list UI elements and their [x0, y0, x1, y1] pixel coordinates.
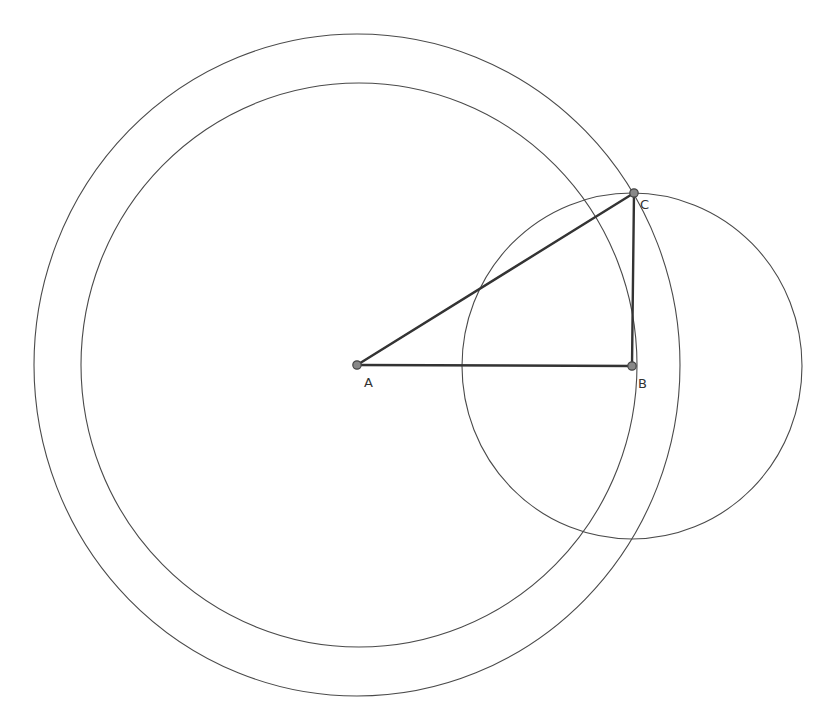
- point-b[interactable]: [628, 362, 636, 370]
- segment-bc: [632, 193, 634, 366]
- point-c[interactable]: [630, 189, 638, 197]
- labels-layer: A B C: [364, 197, 649, 391]
- point-a[interactable]: [353, 361, 361, 369]
- construction-canvas: A B C: [0, 0, 832, 710]
- segment-ac: [357, 193, 634, 365]
- label-c: C: [640, 197, 649, 212]
- label-b: B: [638, 376, 647, 391]
- label-a: A: [364, 375, 373, 390]
- segment-ab: [357, 365, 632, 366]
- segments-layer: [357, 193, 634, 366]
